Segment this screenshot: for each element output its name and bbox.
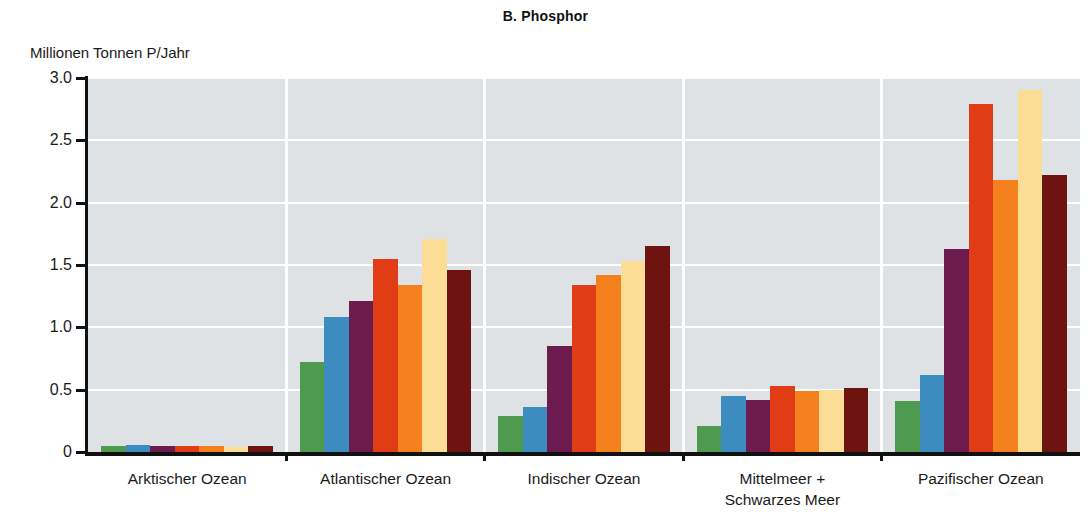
x-axis-category-label: Indischer Ozean bbox=[485, 468, 683, 489]
bar bbox=[721, 396, 746, 452]
bar-group bbox=[300, 78, 472, 452]
x-axis-category-label: Arktischer Ozean bbox=[88, 468, 286, 489]
x-axis-category-label: Pazifischer Ozean bbox=[882, 468, 1080, 489]
bar bbox=[746, 400, 771, 452]
y-axis-title: Millionen Tonnen P/Jahr bbox=[30, 44, 190, 61]
plot-area bbox=[88, 78, 1080, 452]
bar bbox=[498, 416, 523, 452]
bar bbox=[523, 407, 548, 452]
y-axis-tick-label: 2.0 bbox=[6, 195, 72, 211]
y-axis-tick bbox=[76, 139, 86, 142]
y-axis-tick bbox=[76, 389, 86, 392]
x-axis-category-label-line: Atlantischer Ozean bbox=[286, 468, 484, 489]
x-axis-category-label-line: Mittelmeer + bbox=[683, 468, 881, 489]
gridline-vertical bbox=[285, 78, 288, 452]
bar bbox=[349, 301, 374, 452]
bar bbox=[944, 249, 969, 452]
bar-group bbox=[498, 78, 670, 452]
x-axis-category-label-line: Schwarzes Meer bbox=[683, 489, 881, 510]
bar bbox=[819, 390, 844, 452]
bar bbox=[795, 391, 820, 452]
gridline-vertical bbox=[483, 78, 486, 452]
x-axis-tick bbox=[682, 452, 685, 461]
y-axis-tick-label: 3.0 bbox=[6, 70, 72, 86]
y-axis-tick bbox=[76, 264, 86, 267]
x-axis-category-label-line: Arktischer Ozean bbox=[88, 468, 286, 489]
y-axis-tick bbox=[76, 326, 86, 329]
bar bbox=[993, 180, 1018, 452]
y-axis-tick-label: 0 bbox=[6, 444, 72, 460]
gridline-vertical bbox=[682, 78, 685, 452]
x-axis-category-label: Atlantischer Ozean bbox=[286, 468, 484, 489]
bar-group bbox=[697, 78, 869, 452]
chart-title: B. Phosphor bbox=[0, 8, 1091, 24]
bar bbox=[422, 239, 447, 452]
bar bbox=[324, 317, 349, 452]
bar bbox=[645, 246, 670, 452]
x-axis-tick bbox=[483, 452, 486, 461]
bar bbox=[895, 401, 920, 452]
y-axis-tick-label: 2.5 bbox=[6, 132, 72, 148]
bar bbox=[1042, 175, 1067, 452]
bar bbox=[300, 362, 325, 452]
y-axis-tick bbox=[76, 202, 86, 205]
x-axis-category-label-line: Pazifischer Ozean bbox=[882, 468, 1080, 489]
bar bbox=[920, 375, 945, 452]
chart-figure: B. Phosphor Millionen Tonnen P/Jahr 00.5… bbox=[0, 0, 1091, 528]
gridline-vertical bbox=[880, 78, 883, 452]
bar bbox=[770, 386, 795, 452]
bar-group bbox=[895, 78, 1067, 452]
y-axis-tick bbox=[76, 77, 86, 80]
bar bbox=[547, 346, 572, 452]
bar bbox=[126, 445, 151, 452]
x-axis-category-label: Mittelmeer +Schwarzes Meer bbox=[683, 468, 881, 510]
y-axis-tick-label: 1.5 bbox=[6, 257, 72, 273]
bar bbox=[697, 426, 722, 452]
bar bbox=[969, 104, 994, 452]
x-axis-category-label-line: Indischer Ozean bbox=[485, 468, 683, 489]
bar bbox=[572, 285, 597, 452]
x-axis-tick bbox=[285, 452, 288, 461]
bar bbox=[447, 270, 472, 452]
bar bbox=[1018, 90, 1043, 452]
bar bbox=[844, 388, 869, 452]
x-axis-tick bbox=[880, 452, 883, 461]
bar-group bbox=[101, 78, 273, 452]
bar bbox=[596, 275, 621, 452]
bar bbox=[621, 261, 646, 452]
y-axis-tick bbox=[76, 451, 86, 454]
y-axis-tick-label: 0.5 bbox=[6, 382, 72, 398]
y-axis-tick-label: 1.0 bbox=[6, 319, 72, 335]
bar bbox=[373, 259, 398, 452]
bar bbox=[398, 285, 423, 452]
x-axis-line bbox=[85, 452, 1080, 456]
